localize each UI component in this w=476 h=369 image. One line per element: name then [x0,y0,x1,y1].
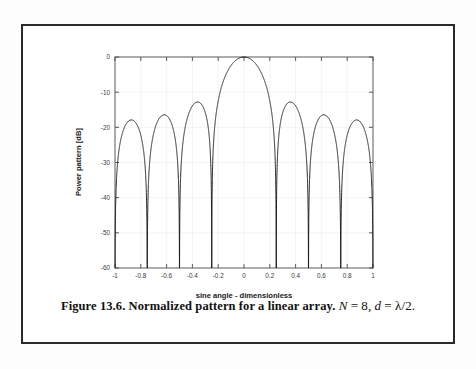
caption-text: Figure 13.6. Normalized pattern for a li… [61,299,336,313]
y-tick-label: -40 [101,194,111,201]
x-tick-label: 0.2 [265,272,274,279]
caption-comma-1: , [368,298,371,313]
caption-variable-n: N [339,298,348,313]
x-tick-label: -0.4 [187,272,198,279]
x-tick-label: 0.4 [291,272,300,279]
power-pattern-chart: -1-0.8-0.6-0.4-0.200.20.40.60.81 0-10-20… [23,26,453,342]
caption-variable-d: d [375,298,382,313]
y-axis-title: Power pattern [dB] [74,128,83,196]
x-tick-label: -0.8 [135,272,146,279]
figure-area: -1-0.8-0.6-0.4-0.200.20.40.60.81 0-10-20… [23,26,453,342]
caption-equals-1: = [351,298,358,313]
y-tick-label: 0 [106,53,110,60]
y-tick-label: -20 [101,124,111,131]
caption-value-d: λ/2 [395,298,412,313]
x-tick-label: 0 [242,272,246,279]
figure-border-frame: -1-0.8-0.6-0.4-0.200.20.40.60.81 0-10-20… [21,24,455,344]
y-tick-label: -10 [101,89,111,96]
caption-value-n: 8 [361,298,368,313]
y-tick-label: -60 [101,264,111,271]
caption-period: . [412,298,415,313]
x-tick-label: -0.2 [213,272,224,279]
y-tick-label: -30 [101,159,111,166]
y-tick-label: -50 [101,229,111,236]
x-tick-label: 0.6 [317,272,326,279]
figure-caption: Figure 13.6. Normalized pattern for a li… [23,298,453,314]
scanned-page: -1-0.8-0.6-0.4-0.200.20.40.60.81 0-10-20… [0,0,476,369]
x-tick-label: -1 [112,272,118,279]
x-tick-label: 0.8 [343,272,352,279]
x-tick-label: 1 [371,272,375,279]
x-tick-label: -0.6 [161,272,172,279]
caption-equals-2: = [384,298,391,313]
